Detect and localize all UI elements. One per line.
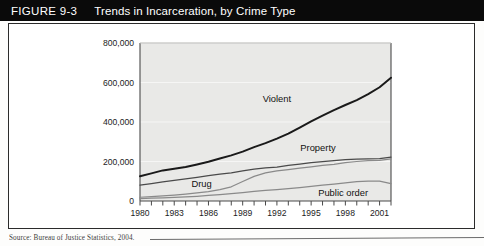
- series-label-property: Property: [300, 142, 336, 153]
- series-label-violent: Violent: [263, 93, 292, 104]
- x-tick-label: 1995: [302, 208, 321, 218]
- x-axis-labels: 19801983198619891992199519982001: [130, 208, 389, 218]
- y-axis-labels: 0200,000400,000600,000800,000: [103, 38, 134, 206]
- figure-number: FIGURE 9-3: [11, 5, 77, 17]
- series-label-public-order: Public order: [318, 187, 368, 198]
- line-chart: 0200,000400,000600,000800,000 1980198319…: [8, 23, 475, 229]
- y-tick-label: 200,000: [103, 157, 134, 167]
- series-label-drug: Drug: [191, 178, 211, 189]
- x-tick-label: 1998: [336, 208, 355, 218]
- x-tick-label: 1992: [267, 208, 286, 218]
- y-tick-label: 600,000: [103, 78, 134, 88]
- axis-ticks: [140, 201, 391, 206]
- x-tick-label: 1980: [130, 208, 149, 218]
- x-tick-label: 2001: [370, 208, 389, 218]
- x-tick-label: 1989: [233, 208, 252, 218]
- figure-title-bar: FIGURE 9-3 Trends in Incarceration, by C…: [0, 0, 484, 21]
- chart-area: 0200,000400,000600,000800,000 1980198319…: [8, 23, 475, 229]
- y-tick-label: 800,000: [103, 38, 134, 48]
- x-tick-label: 1986: [199, 208, 218, 218]
- x-tick-label: 1983: [165, 208, 184, 218]
- figure-container: FIGURE 9-3 Trends in Incarceration, by C…: [0, 0, 484, 246]
- figure-title: Trends in Incarceration, by Crime Type: [94, 5, 295, 17]
- y-tick-label: 400,000: [103, 117, 134, 127]
- y-tick-label: 0: [129, 196, 134, 206]
